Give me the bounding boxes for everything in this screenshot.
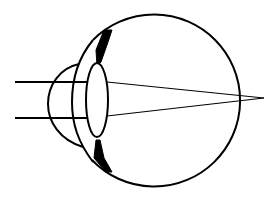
- eye-diagram-svg: [0, 0, 276, 199]
- lens: [86, 63, 108, 137]
- background: [0, 0, 276, 199]
